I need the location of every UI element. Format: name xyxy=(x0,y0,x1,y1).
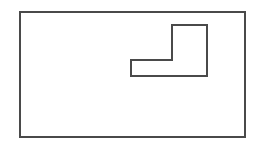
figure-canvas xyxy=(0,0,263,153)
line-drawing-svg xyxy=(0,0,263,153)
